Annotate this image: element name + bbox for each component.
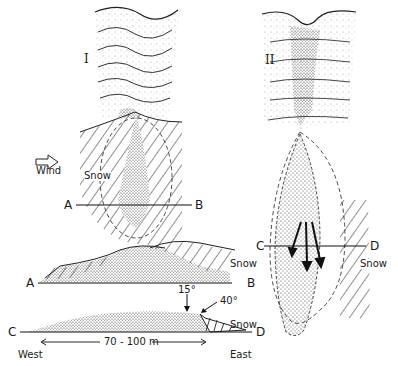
- panel-I-gully: [95, 7, 180, 120]
- panel-II-snow-label: Snow: [360, 259, 387, 269]
- profile-AB-snow-label: Snow: [230, 259, 257, 269]
- diagram-canvas: [0, 0, 398, 366]
- profile-label-C: C: [8, 326, 16, 338]
- angle-15-label: 15°: [178, 285, 196, 295]
- section-label-B: B: [195, 199, 203, 211]
- section-label-A: A: [64, 199, 72, 211]
- profile-AB: [38, 241, 235, 283]
- panel-II-gully: [262, 11, 356, 130]
- profile-label-B: B: [247, 277, 255, 289]
- profile-CD-snow-label: Snow: [230, 320, 257, 330]
- wind-label: Wind: [36, 166, 61, 176]
- profile-label-A: A: [26, 277, 34, 289]
- panel-I-snow-label: Snow: [84, 171, 111, 181]
- length-label: 70 - 100 m: [104, 337, 159, 347]
- section-label-C: C: [256, 240, 264, 252]
- panel-I-label: I: [84, 53, 89, 65]
- west-label: West: [18, 350, 43, 360]
- east-label: East: [230, 350, 252, 360]
- angle-40-label: 40°: [220, 296, 238, 306]
- panel-II-label: II: [265, 54, 274, 66]
- profile-label-D: D: [256, 326, 265, 338]
- panel-II-fan: [270, 132, 345, 336]
- section-label-D: D: [370, 240, 379, 252]
